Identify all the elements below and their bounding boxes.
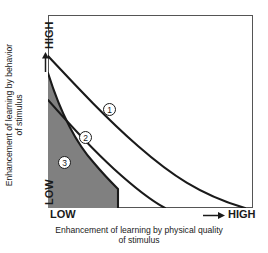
- curve-label-3: 3: [58, 156, 71, 169]
- plot-area: [48, 15, 253, 208]
- curve-label-2: 2: [79, 131, 92, 144]
- y-axis-caption-line2: of stimulus: [14, 22, 24, 208]
- y-axis-tick-high: HIGH: [44, 22, 55, 50]
- curve-label-1: 1: [103, 103, 116, 116]
- y-axis-caption-line1: Enhancement of learning by behavior: [4, 22, 14, 208]
- y-axis-caption: Enhancement of learning by behavior of s…: [4, 22, 25, 208]
- x-axis-tick-high: HIGH: [228, 209, 256, 220]
- x-axis-caption: Enhancement of learning by physical qual…: [20, 225, 258, 246]
- chart-figure: 1 2 3 HIGH LOW LOW HIGH Enhancement of l…: [0, 0, 268, 253]
- x-axis-caption-line1: Enhancement of learning by physical qual…: [20, 225, 258, 235]
- x-axis-arrow-icon: [203, 211, 225, 220]
- x-axis-caption-line2: of stimulus: [20, 235, 258, 245]
- y-axis-tick-low: LOW: [44, 179, 55, 205]
- y-axis-arrow-icon: [41, 52, 50, 72]
- x-axis-tick-low: LOW: [50, 209, 76, 220]
